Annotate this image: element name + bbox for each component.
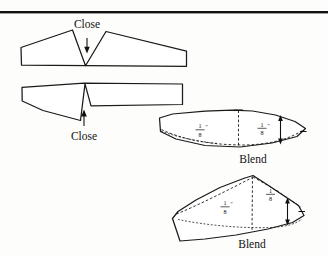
svg-text:″: ″ (268, 123, 270, 129)
svg-text:″: ″ (276, 189, 278, 195)
upper-piece-outline (21, 30, 187, 66)
upper-pattern-piece-with-open-dart (21, 30, 187, 66)
top-rule (0, 11, 328, 13)
svg-text:8: 8 (198, 131, 201, 138)
svg-text:8: 8 (223, 208, 226, 215)
blend-label-middle: Blend (239, 153, 267, 165)
blended-leaf-pattern-piece: 1 8 ″ 1 8 ″ (160, 110, 307, 147)
svg-text:8: 8 (269, 195, 272, 202)
svg-text:″: ″ (231, 201, 233, 207)
blend-label-bottom: Blend (238, 238, 266, 250)
diagram-page: Close Close (0, 0, 328, 256)
svg-text:1: 1 (269, 187, 272, 194)
svg-text:″: ″ (206, 124, 208, 130)
svg-text:1: 1 (260, 121, 263, 128)
lower-piece-outline (22, 83, 183, 120)
svg-text:8: 8 (260, 129, 263, 136)
close-label-top: Close (74, 18, 100, 30)
diagram-canvas: Close Close (0, 0, 328, 256)
svg-text:1: 1 (223, 199, 226, 206)
svg-text:1: 1 (198, 122, 201, 129)
close-label-bottom: Close (71, 130, 97, 142)
wing-piece-outline (173, 176, 305, 242)
close-dart-arrow-down (84, 38, 90, 54)
blended-wing-pattern-piece: 1 8 ″ 1 8 ″ (173, 176, 306, 242)
lower-pattern-piece-with-open-dart (22, 83, 183, 120)
leaf-piece-outline (160, 110, 306, 147)
